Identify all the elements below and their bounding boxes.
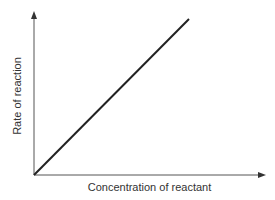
- y-axis-arrow-icon: [31, 11, 37, 19]
- chart: Concentration of reactant Rate of reacti…: [0, 0, 275, 200]
- plot-area: [0, 0, 275, 200]
- x-axis-label: Concentration of reactant: [34, 181, 265, 193]
- y-axis-label: Rate of reaction: [11, 16, 25, 176]
- data-line: [34, 19, 189, 175]
- x-axis-arrow-icon: [258, 172, 266, 178]
